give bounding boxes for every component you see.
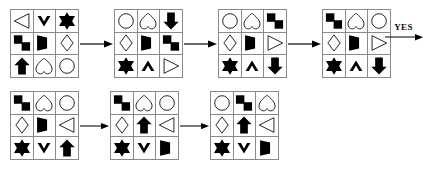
grid-cell — [34, 10, 56, 32]
arrow-down-icon — [265, 56, 285, 76]
grid-cell — [234, 92, 256, 114]
triangle-left-icon — [12, 11, 32, 31]
arrow-right-icon — [179, 119, 210, 133]
yes-label: YES — [394, 22, 413, 33]
arrow-right-icon — [79, 37, 114, 51]
heart-icon — [138, 11, 158, 31]
grid-cell — [346, 33, 368, 55]
grid-cell — [34, 55, 56, 77]
grid-top-4 — [322, 9, 391, 78]
arrow-up-icon — [134, 115, 154, 135]
grid-cell — [138, 55, 160, 77]
grid-cell — [346, 10, 368, 32]
circle-icon — [157, 93, 177, 113]
dshape-icon — [157, 138, 177, 158]
grid-cell — [134, 115, 156, 137]
grid-cell — [256, 92, 278, 114]
grid-cell — [160, 55, 182, 77]
arrow-right-icon — [183, 37, 218, 51]
grid-cell — [111, 137, 133, 159]
grid-cell — [211, 115, 233, 137]
grid-cell — [219, 33, 241, 55]
bottom-sequence — [10, 91, 279, 160]
step-icon — [12, 93, 32, 113]
grid-cell — [323, 10, 345, 32]
chevron-up-icon — [138, 58, 158, 74]
grid-cell — [111, 92, 133, 114]
arrow-down-icon — [369, 56, 389, 76]
grid-cell — [134, 92, 156, 114]
grid-cell — [134, 137, 156, 159]
heart-icon — [134, 93, 154, 113]
grid-cell — [346, 55, 368, 77]
star-icon — [220, 56, 240, 76]
arrow-down-icon — [161, 11, 181, 31]
grid-cell — [11, 10, 33, 32]
grid-bottom-3 — [210, 91, 279, 160]
grid-cell — [264, 10, 286, 32]
grid-cell — [34, 115, 56, 137]
grid-cell — [160, 10, 182, 32]
grid-cell — [234, 137, 256, 159]
dshape-icon — [34, 115, 54, 135]
diamond-icon — [116, 33, 136, 53]
star-icon — [324, 56, 344, 76]
grid-cell — [56, 92, 78, 114]
diamond-icon — [57, 33, 77, 53]
grid-cell — [115, 10, 137, 32]
grid-cell — [138, 10, 160, 32]
diamond-icon — [220, 33, 240, 53]
arrow-right-icon — [287, 37, 322, 51]
circle-icon — [57, 93, 77, 113]
arrow-up-icon — [234, 115, 254, 135]
step-icon — [161, 33, 181, 53]
diamond-icon — [112, 115, 132, 135]
heart-icon — [257, 93, 277, 113]
step-icon — [112, 93, 132, 113]
heart-icon — [346, 11, 366, 31]
grid-cell — [11, 137, 33, 159]
heart-icon — [34, 56, 54, 76]
grid-cell — [56, 10, 78, 32]
diamond-icon — [324, 33, 344, 53]
star-icon — [116, 56, 136, 76]
grid-cell — [242, 55, 264, 77]
grid-top-1 — [10, 9, 79, 78]
grid-cell — [256, 137, 278, 159]
dshape-icon — [242, 33, 262, 53]
triangle-left-icon — [157, 115, 177, 135]
grid-cell — [219, 10, 241, 32]
chevron-up-icon — [346, 58, 366, 74]
diamond-icon — [212, 115, 232, 135]
grid-cell — [264, 33, 286, 55]
circle-icon — [220, 11, 240, 31]
grid-cell — [160, 33, 182, 55]
grid-cell — [11, 92, 33, 114]
diamond-icon — [12, 115, 32, 135]
chevron-up-icon — [242, 58, 262, 74]
grid-cell — [34, 92, 56, 114]
grid-cell — [115, 55, 137, 77]
grid-cell — [115, 33, 137, 55]
step-icon — [234, 93, 254, 113]
circle-icon — [116, 11, 136, 31]
grid-cell — [242, 33, 264, 55]
grid-cell — [323, 33, 345, 55]
grid-cell — [256, 115, 278, 137]
grid-cell — [11, 115, 33, 137]
step-icon — [265, 11, 285, 31]
star-icon — [12, 138, 32, 158]
grid-cell — [56, 33, 78, 55]
grid-cell — [56, 137, 78, 159]
grid-cell — [156, 92, 178, 114]
grid-top-2 — [114, 9, 183, 78]
arrow-up-icon — [57, 138, 77, 158]
arrow-right-icon — [79, 119, 110, 133]
grid-top-3 — [218, 9, 287, 78]
top-sequence — [10, 9, 391, 78]
dshape-icon — [34, 33, 54, 53]
circle-icon — [212, 93, 232, 113]
grid-cell — [34, 33, 56, 55]
chevron-down-icon — [134, 140, 154, 156]
triangle-right-icon — [265, 33, 285, 53]
